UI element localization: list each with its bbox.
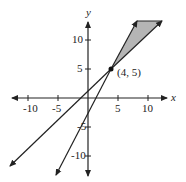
x-tick-label: 10 bbox=[142, 102, 153, 114]
intersection-point bbox=[109, 67, 114, 72]
line-1 bbox=[10, 69, 111, 166]
y-tick-label: -5 bbox=[77, 120, 86, 132]
plot-area bbox=[0, 0, 186, 182]
x-tick-label: -5 bbox=[52, 102, 61, 114]
chart: -10 -5 5 10 10 5 -5 -10 x y (4, 5) bbox=[0, 0, 186, 182]
x-axis-label: x bbox=[171, 91, 176, 103]
x-tick-label: -10 bbox=[23, 102, 38, 114]
intersection-label: (4, 5) bbox=[117, 66, 141, 78]
y-tick-label: 10 bbox=[72, 33, 83, 45]
y-tick-label: -10 bbox=[71, 149, 86, 161]
y-axis-label: y bbox=[86, 6, 91, 18]
y-tick-label: 5 bbox=[77, 62, 83, 74]
x-tick-label: 5 bbox=[115, 102, 121, 114]
